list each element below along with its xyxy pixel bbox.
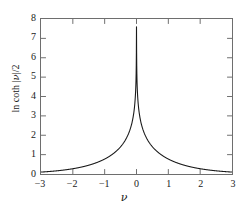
y-axis-label-suffix: |/2	[10, 65, 21, 75]
x-tick-label: −3	[35, 179, 46, 189]
y-tick-label: 7	[31, 32, 36, 42]
x-tick-label: −2	[67, 179, 78, 189]
x-tick-label: 2	[198, 179, 203, 189]
y-tick-label: 6	[31, 52, 36, 62]
plot-area	[40, 18, 233, 175]
y-axis-label-variable: ν	[10, 74, 21, 80]
data-series-line	[41, 27, 232, 172]
x-tick-label: 3	[231, 179, 236, 189]
x-axis-label: ν	[0, 191, 248, 204]
y-tick-label: 1	[31, 149, 36, 159]
y-axis-label-prefix: ln coth |	[10, 80, 21, 112]
x-tick-label: 1	[166, 179, 171, 189]
y-tick-label: 4	[31, 91, 36, 101]
x-tick-label: 0	[134, 179, 139, 189]
y-tick-label: 3	[31, 110, 36, 120]
figure-canvas: 8 7 6 5 4 3 2 1 0	[0, 0, 248, 211]
x-tick-label: −1	[99, 179, 110, 189]
y-axis-label: ln coth |ν|/2	[10, 10, 21, 167]
curve-svg	[41, 19, 232, 174]
y-tick-label: 2	[31, 130, 36, 140]
x-axis-label-variable: ν	[121, 191, 128, 204]
y-tick-label: 5	[31, 71, 36, 81]
y-tick-label: 8	[31, 13, 36, 23]
